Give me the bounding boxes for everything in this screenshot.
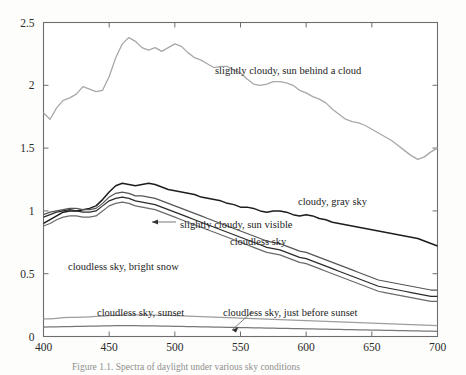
ann-just-before-sunset: cloudless sky, just before sunset bbox=[223, 307, 357, 318]
ann-sun-behind-cloud: slightly cloudy, sun behind a cloud bbox=[215, 65, 361, 76]
x-tick-label-500: 500 bbox=[166, 341, 183, 353]
figure-caption: Figure 1.1. Spectra of daylight under va… bbox=[72, 362, 402, 372]
x-tick-label-450: 450 bbox=[101, 341, 118, 353]
ann-sunset: cloudless sky, sunset bbox=[97, 307, 184, 318]
x-tick-label-550: 550 bbox=[232, 341, 249, 353]
y-tick-label-2: 2 bbox=[0, 79, 35, 91]
y-tick-label-0.5: 0.5 bbox=[0, 268, 35, 280]
ann-sun-visible: slightly cloudy, sun visible bbox=[180, 219, 293, 230]
x-tick-label-650: 650 bbox=[363, 341, 380, 353]
chart-canvas bbox=[0, 0, 466, 375]
ann-cloudy-gray-sky: cloudy, gray sky bbox=[298, 196, 367, 207]
ann-bright-snow: cloudless sky, bright snow bbox=[68, 261, 179, 272]
y-tick-label-0: 0 bbox=[0, 331, 35, 343]
y-tick-label-2.5: 2.5 bbox=[0, 17, 35, 29]
y-tick-label-1: 1 bbox=[0, 205, 35, 217]
y-tick-label-1.5: 1.5 bbox=[0, 142, 35, 154]
figure-container: 00.511.522.5400450500550600650700 slight… bbox=[0, 0, 466, 375]
ann-cloudless-sky: cloudless sky bbox=[230, 236, 286, 247]
x-tick-label-600: 600 bbox=[298, 341, 315, 353]
x-tick-label-700: 700 bbox=[429, 341, 446, 353]
x-tick-label-400: 400 bbox=[35, 341, 52, 353]
